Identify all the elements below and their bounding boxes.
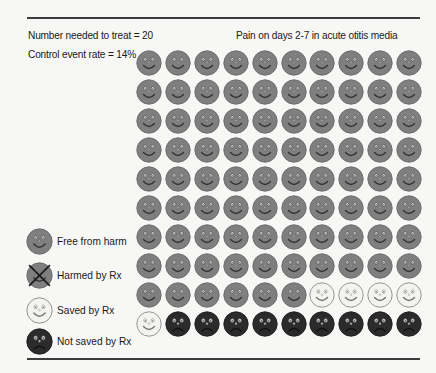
smiley-grey-icon: [309, 253, 335, 279]
smiley-grey-icon: [338, 253, 364, 279]
smiley-grey-icon: [165, 137, 191, 163]
smiley-light-icon: [367, 282, 393, 308]
smiley-grey-icon: [136, 253, 162, 279]
smiley-crossed-icon: [26, 262, 53, 289]
smiley-grey-icon: [396, 253, 422, 279]
smiley-grey-icon: [223, 224, 249, 250]
chart-title: Pain on days 2-7 in acute otitis media: [236, 29, 398, 41]
smiley-grey-icon: [367, 108, 393, 134]
smiley-grey-icon: [252, 108, 278, 134]
smiley-grey-icon: [367, 50, 393, 76]
smiley-grey-icon: [194, 50, 220, 76]
smiley-grey-icon: [396, 108, 422, 134]
smiley-grey-icon: [252, 79, 278, 105]
legend-label: Saved by Rx: [57, 304, 114, 316]
smiley-grey-icon: [194, 166, 220, 192]
smiley-grey-icon: [26, 228, 53, 255]
legend-label: Not saved by Rx: [57, 335, 131, 347]
smiley-grey-icon: [252, 282, 278, 308]
smiley-grey-icon: [396, 79, 422, 105]
smiley-grey-icon: [136, 282, 162, 308]
smiley-grey-icon: [136, 166, 162, 192]
smiley-grey-icon: [136, 108, 162, 134]
frowny-dark-icon: [281, 311, 307, 337]
frowny-dark-icon: [338, 311, 364, 337]
smiley-grey-icon: [396, 137, 422, 163]
smiley-grey-icon: [194, 137, 220, 163]
smiley-grey-icon: [367, 137, 393, 163]
smiley-grey-icon: [165, 166, 191, 192]
smiley-grey-icon: [136, 195, 162, 221]
smiley-grey-icon: [309, 166, 335, 192]
smiley-grey-icon: [194, 108, 220, 134]
smiley-grey-icon: [309, 79, 335, 105]
smiley-grey-icon: [309, 108, 335, 134]
smiley-grey-icon: [367, 253, 393, 279]
smiley-grey-icon: [338, 195, 364, 221]
smiley-grey-icon: [338, 108, 364, 134]
smiley-grey-icon: [223, 166, 249, 192]
frowny-dark-icon: [252, 311, 278, 337]
smiley-grey-icon: [223, 50, 249, 76]
smiley-grey-icon: [252, 224, 278, 250]
smiley-grey-icon: [223, 79, 249, 105]
smiley-grey-icon: [194, 282, 220, 308]
smiley-grey-icon: [165, 108, 191, 134]
smiley-grey-icon: [396, 195, 422, 221]
smiley-grey-icon: [281, 79, 307, 105]
smiley-grey-icon: [396, 224, 422, 250]
nnt-label: Number needed to treat = 20: [28, 29, 153, 41]
smiley-light-icon: [396, 282, 422, 308]
smiley-grey-icon: [165, 50, 191, 76]
smiley-grey-icon: [223, 137, 249, 163]
smiley-grey-icon: [194, 253, 220, 279]
smiley-grey-icon: [281, 253, 307, 279]
smiley-grey-icon: [165, 79, 191, 105]
smiley-grey-icon: [136, 224, 162, 250]
smiley-grey-icon: [165, 224, 191, 250]
smiley-grey-icon: [136, 50, 162, 76]
control-event-rate-label: Control event rate = 14%: [28, 48, 136, 60]
smiley-grey-icon: [281, 50, 307, 76]
smiley-grey-icon: [396, 166, 422, 192]
smiley-grey-icon: [281, 282, 307, 308]
smiley-grey-icon: [281, 137, 307, 163]
smiley-grey-icon: [194, 195, 220, 221]
smiley-grey-icon: [252, 137, 278, 163]
smiley-grey-icon: [223, 253, 249, 279]
smiley-grey-icon: [223, 282, 249, 308]
smiley-grey-icon: [194, 224, 220, 250]
smiley-light-icon: [338, 282, 364, 308]
smiley-grey-icon: [165, 253, 191, 279]
smiley-light-icon: [26, 297, 53, 324]
smiley-grey-icon: [367, 79, 393, 105]
smiley-grey-icon: [338, 137, 364, 163]
smiley-grey-icon: [223, 108, 249, 134]
smiley-light-icon: [309, 282, 335, 308]
smiley-grey-icon: [338, 79, 364, 105]
smiley-grey-icon: [338, 166, 364, 192]
smiley-grey-icon: [281, 224, 307, 250]
smiley-grey-icon: [367, 195, 393, 221]
top-rule: [27, 17, 420, 19]
icon-array-grid: [136, 50, 430, 344]
smiley-grey-icon: [338, 50, 364, 76]
legend-label: Harmed by Rx: [57, 269, 122, 281]
frowny-dark-icon: [309, 311, 335, 337]
smiley-grey-icon: [165, 195, 191, 221]
smiley-grey-icon: [252, 50, 278, 76]
frowny-dark-icon: [194, 311, 220, 337]
smiley-grey-icon: [367, 166, 393, 192]
smiley-grey-icon: [367, 224, 393, 250]
smiley-grey-icon: [165, 282, 191, 308]
frowny-dark-icon: [26, 328, 53, 355]
smiley-grey-icon: [281, 108, 307, 134]
legend-label: Free from harm: [57, 235, 127, 247]
smiley-grey-icon: [223, 195, 249, 221]
smiley-grey-icon: [309, 137, 335, 163]
frowny-dark-icon: [367, 311, 393, 337]
frowny-dark-icon: [223, 311, 249, 337]
smiley-grey-icon: [281, 166, 307, 192]
smiley-grey-icon: [309, 195, 335, 221]
frowny-dark-icon: [396, 311, 422, 337]
